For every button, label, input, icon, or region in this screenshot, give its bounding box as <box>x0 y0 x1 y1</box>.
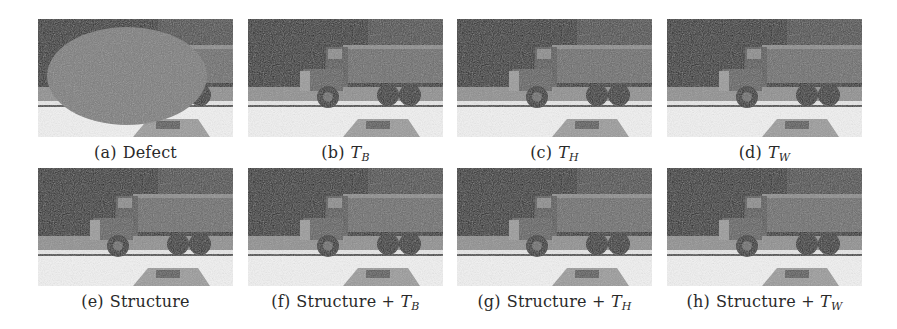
figure: (a)Defect (b)TB (c)TH (d)TW (e)Struct <box>0 0 897 329</box>
result-image-structure-tb <box>248 168 443 286</box>
caption-b: (b)TB <box>228 143 463 164</box>
result-image-structure <box>38 168 233 286</box>
caption-e: (e)Structure <box>18 292 253 311</box>
caption-h: (h)Structure + TW <box>647 292 882 313</box>
caption-c: (c)TH <box>437 143 672 164</box>
result-image-tb <box>248 19 443 137</box>
result-image-th <box>457 19 652 137</box>
defect-image <box>38 19 233 137</box>
caption-d: (d)TW <box>647 143 882 164</box>
caption-f: (f)Structure + TB <box>228 292 463 313</box>
result-image-structure-th <box>457 168 652 286</box>
result-image-tw <box>667 19 862 137</box>
caption-a: (a)Defect <box>18 143 253 162</box>
caption-g: (g)Structure + TH <box>437 292 672 313</box>
result-image-structure-tw <box>667 168 862 286</box>
